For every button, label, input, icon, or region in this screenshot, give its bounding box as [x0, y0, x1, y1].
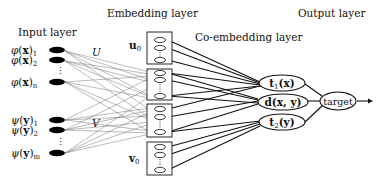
- neural-network-diagram: Input layer Embedding layer Co-embedding…: [0, 0, 377, 182]
- coembedding-layer-title: Co-embedding layer: [195, 31, 303, 43]
- input-nodes-phi: ⋮ φ(x)1 φ(x)2 φ(x)n: [11, 44, 65, 90]
- embedding-box-u0: [147, 32, 172, 64]
- t2-label: t2(y): [269, 116, 294, 130]
- output-layer-title: Output layer: [298, 7, 366, 19]
- vertical-ellipsis-icon: ⋮: [56, 66, 65, 76]
- phi-xn-label: φ(x)n: [11, 76, 38, 90]
- weight-U-label: U: [92, 46, 102, 58]
- input-node: [49, 57, 65, 63]
- embedding-box-2: [147, 69, 172, 100]
- input-to-embedding-connections: [65, 51, 150, 153]
- embedding-box-3: [147, 104, 172, 137]
- d-label: d(x, y): [265, 96, 302, 108]
- t1-label: t1(x): [269, 77, 295, 91]
- u0-label: u0: [129, 39, 141, 53]
- embedding-box-v0: [147, 142, 172, 175]
- embedding-to-coembedding-connections: [168, 40, 260, 170]
- target-label: target: [323, 96, 353, 107]
- input-layer-title: Input layer: [18, 26, 78, 38]
- embedding-layer-title: Embedding layer: [107, 7, 199, 19]
- input-nodes-psi: ⋮ ψ(y)1 ψ(y)2 ψ(y)m: [11, 114, 65, 161]
- input-node: [49, 47, 65, 53]
- v0-label: v0: [128, 152, 140, 166]
- output-arrow-icon: [368, 99, 373, 104]
- embedding-boxes: u0 v0: [128, 32, 172, 175]
- input-node: [49, 117, 65, 123]
- input-node: [49, 127, 65, 133]
- vertical-ellipsis-icon: ⋮: [56, 137, 65, 147]
- output-node: target: [320, 92, 356, 110]
- psi-ym-label: ψ(y)m: [11, 147, 41, 161]
- input-node: [49, 79, 65, 85]
- coembedding-nodes: t1(x) d(x, y) t2(y): [258, 75, 308, 130]
- input-node: [49, 150, 65, 156]
- weight-V-label: V: [92, 117, 101, 129]
